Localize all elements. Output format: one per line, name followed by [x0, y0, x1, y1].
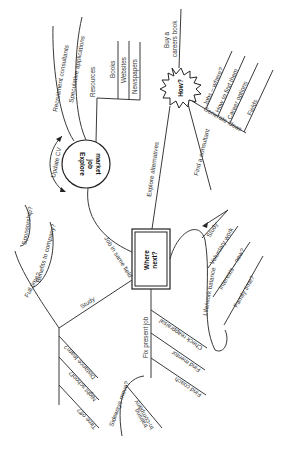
buy-book-label-1: Buy a — [163, 31, 171, 48]
books-label: Books — [109, 60, 116, 78]
resources-line — [96, 98, 97, 142]
life-work-balance-label: Life/work balance — [201, 266, 216, 316]
update-cv-arrow-top-icon — [56, 136, 62, 142]
node-how[interactable]: How? — [160, 68, 201, 108]
explore-label-3: market — [95, 153, 102, 175]
find-consultant-label: Find a consultant — [192, 128, 210, 176]
buy-book-line — [179, 9, 181, 68]
central-node-where-next[interactable]: Where next? — [132, 229, 170, 289]
central-node-label-2: next? — [151, 251, 158, 268]
family-time-label: Family time? — [232, 274, 257, 309]
explore-label-1: Explore — [78, 152, 86, 176]
node-explore-job-market[interactable]: Explore job market — [62, 140, 110, 188]
newspapers-label: Newspapers — [131, 59, 139, 94]
branch-fix-present-job-label: Fix present job — [142, 316, 150, 358]
interests-new-label: Interests – new? — [217, 247, 246, 291]
mind-map: Where next? Explore job market How? Job … — [0, 0, 281, 454]
resources-label: Resources — [89, 67, 96, 97]
update-cv-arrow-bottom-icon — [60, 187, 66, 192]
update-cv-label: Update CV — [49, 146, 63, 179]
speculative-label: Speculative applications — [67, 35, 87, 103]
check-reappraisal-line — [151, 310, 207, 348]
branch-study-label: Study — [79, 295, 98, 311]
find-coach-line — [151, 358, 206, 395]
websites-label: Websites — [120, 57, 127, 83]
find-mentor-label: Find mentor — [170, 349, 202, 374]
branch-job-same-field-label: Job in same field — [103, 235, 134, 279]
buy-book-label-2: careers book — [171, 20, 178, 57]
sponsorship-label: Sponsorship? — [20, 206, 35, 246]
check-reappraisal-label: Check reappraisal — [158, 317, 205, 352]
how-label: How? — [177, 79, 184, 97]
fields-label: Fields — [246, 98, 259, 116]
explore-label-2: job — [86, 158, 94, 169]
full-time-line — [15, 251, 59, 328]
branch-study-line — [59, 280, 132, 328]
generate-ideas-label: Generate ideas — [203, 105, 244, 133]
central-node-label-1: Where — [143, 250, 150, 270]
time-off-label: Time off? — [75, 407, 98, 431]
find-coach-label: Find coach — [173, 376, 203, 399]
